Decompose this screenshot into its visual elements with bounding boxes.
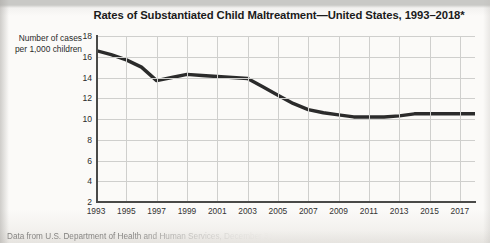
- x-tick-label: 2013: [390, 206, 409, 216]
- x-axis-line: [96, 201, 476, 203]
- x-tick-label: 2017: [451, 206, 470, 216]
- gridline-horizontal: [96, 78, 475, 79]
- x-tick-label: 1993: [87, 206, 106, 216]
- plot-area: [96, 36, 475, 202]
- x-tick-label: 2015: [420, 206, 439, 216]
- gridline-vertical: [308, 36, 309, 202]
- y-tick-label: 18: [70, 31, 92, 41]
- x-tick-label: 1999: [178, 206, 197, 216]
- y-tick-label: 14: [70, 73, 92, 83]
- gridline-vertical: [187, 36, 188, 202]
- y-tick-label: 12: [70, 93, 92, 103]
- gridline-vertical: [278, 36, 279, 202]
- gridline-vertical: [369, 36, 370, 202]
- gridline-vertical: [399, 36, 400, 202]
- y-tick-label: 16: [70, 52, 92, 62]
- chart-title: Rates of Substantiated Child Maltreatmen…: [70, 9, 488, 21]
- x-tick-label: 1995: [117, 206, 136, 216]
- gridline-horizontal: [96, 140, 475, 141]
- gridline-horizontal: [96, 57, 475, 58]
- gridline-horizontal: [96, 161, 475, 162]
- gridline-horizontal: [96, 119, 475, 120]
- gridline-vertical: [339, 36, 340, 202]
- y-tick-label: 6: [70, 156, 92, 166]
- gridline-vertical: [460, 36, 461, 202]
- x-tick-label: 2005: [269, 206, 288, 216]
- y-tick-label: 10: [70, 114, 92, 124]
- x-tick-label: 2001: [208, 206, 227, 216]
- x-axis-tick-labels: 1993199519971999200120032005200720092011…: [96, 206, 475, 220]
- source-note: Data from U.S. Department of Health and …: [7, 232, 296, 241]
- gridline-horizontal: [96, 181, 475, 182]
- gridline-vertical: [217, 36, 218, 202]
- x-tick-label: 2011: [360, 206, 378, 216]
- x-tick-label: 2003: [238, 206, 257, 216]
- gridline-horizontal: [96, 36, 475, 37]
- gridline-vertical: [126, 36, 127, 202]
- y-tick-label: 4: [70, 176, 92, 186]
- x-tick-label: 2009: [329, 206, 348, 216]
- gridline-horizontal: [96, 98, 475, 99]
- scanned-page: Rates of Substantiated Child Maltreatmen…: [0, 0, 490, 243]
- y-axis-tick-labels: 18161412108642: [68, 36, 92, 202]
- gridline-vertical: [248, 36, 249, 202]
- gridline-vertical: [157, 36, 158, 202]
- x-tick-label: 1997: [147, 206, 166, 216]
- y-axis-line: [96, 35, 98, 203]
- gridline-vertical: [430, 36, 431, 202]
- y-tick-label: 8: [70, 135, 92, 145]
- x-tick-label: 2007: [299, 206, 318, 216]
